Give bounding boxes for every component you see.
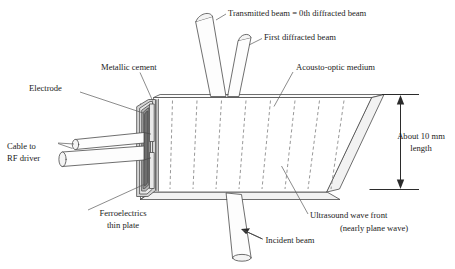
label-ultrasound-line2: (nearly plane wave) [340, 223, 408, 233]
leader-metallic-cement [140, 73, 153, 101]
leader-transmitted-beam [216, 14, 226, 20]
medium-top-face [154, 95, 384, 98]
label-transmitted-beam: Transmitted beam = 0th diffracted beam [228, 8, 367, 18]
label-metallic-cement: Metallic cement [101, 62, 157, 72]
label-electrode: Electrode [29, 83, 62, 93]
label-ultrasound-line1: Ultrasound wave front [310, 210, 388, 220]
stack-upper-window [150, 104, 154, 142]
label-ferroelectrics-line1: Ferroelectrics [99, 208, 147, 218]
leader-electrode [80, 92, 143, 113]
rf-cable-lower-cap [59, 152, 66, 167]
stack-inner-core [145, 111, 148, 186]
incident-beam-cap [233, 254, 251, 261]
label-dimension-line2: length [410, 143, 432, 153]
label-dimension-line1: About 10 mm [397, 131, 445, 141]
dimension-arrow-up [397, 95, 404, 105]
label-cable-line2: RF driver [7, 153, 40, 163]
label-first-diffracted-beam: First diffracted beam [264, 32, 336, 42]
label-ferroelectrics-line2: thin plate [107, 220, 139, 230]
leader-ferroelectrics [88, 184, 145, 210]
outgoing-beams [196, 13, 251, 96]
label-acousto-optic-medium: Acousto-optic medium [296, 62, 375, 72]
transmitted-beam-body [196, 17, 226, 97]
leader-cable-2 [58, 144, 73, 149]
incident-beam-body [227, 193, 252, 259]
first-diffracted-beam-body [228, 38, 251, 97]
incident-beam [227, 193, 263, 261]
rf-cable-upper-cap [72, 139, 78, 149]
label-incident-beam: Incident beam [266, 235, 315, 245]
leader-cable [58, 143, 74, 144]
acousto-optic-modulator-figure: Transmitted beam = 0th diffracted beam F… [0, 0, 455, 269]
dimension-arrow-down [397, 180, 404, 190]
label-cable-line1: Cable to [7, 141, 36, 151]
